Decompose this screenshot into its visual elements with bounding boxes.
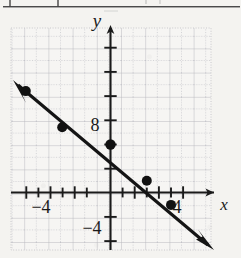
data-point-y-intercept — [105, 139, 115, 149]
data-point — [142, 176, 152, 186]
y-tick-label-8: 8 — [91, 115, 100, 135]
x-tick-label-4: 4 — [173, 197, 182, 217]
x-axis-label: x — [219, 195, 228, 214]
data-point — [21, 86, 31, 96]
x-tick-label-neg4: −4 — [31, 197, 50, 217]
y-tick-label-neg4: −4 — [82, 218, 101, 238]
coordinate-graph-svg: y x −4 4 8 −4 — [0, 0, 241, 258]
graph-figure: y x −4 4 8 −4 — [0, 0, 241, 258]
data-point — [57, 122, 67, 132]
y-axis-label: y — [91, 10, 102, 31]
